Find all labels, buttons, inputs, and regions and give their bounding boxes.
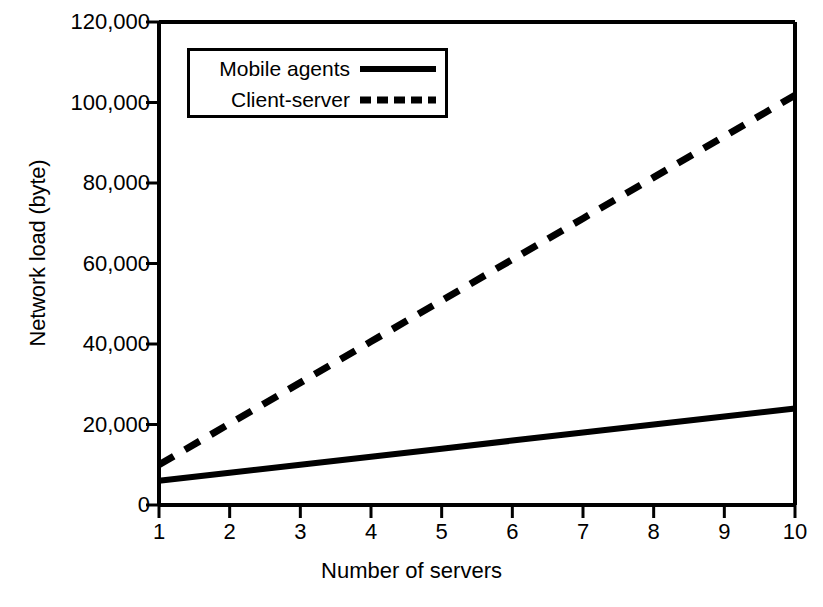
legend-label-client-server: Client-server [190, 88, 358, 112]
x-tick-label: 7 [553, 519, 613, 545]
x-tick-label: 1 [129, 519, 189, 545]
legend: Mobile agents Client-server [187, 48, 448, 118]
x-axis-title: Number of servers [0, 558, 823, 584]
x-tick-label: 5 [412, 519, 472, 545]
x-tick-label: 6 [482, 519, 542, 545]
legend-swatch-solid-line [358, 59, 438, 79]
network-load-chart: Network load (byte) 020,00040,00060,0008… [0, 0, 823, 607]
x-tick-label: 3 [270, 519, 330, 545]
series-line-mobile-agents [159, 408, 795, 480]
legend-item-client-server: Client-server [190, 84, 445, 115]
x-tick-label: 10 [765, 519, 823, 545]
data-series-layer [159, 95, 795, 481]
legend-label-mobile-agents: Mobile agents [190, 57, 358, 81]
x-tick-label: 4 [341, 519, 401, 545]
series-line-client-server [159, 95, 795, 464]
x-tick-label: 9 [694, 519, 754, 545]
legend-item-mobile-agents: Mobile agents [190, 53, 445, 84]
x-tick-label: 2 [200, 519, 260, 545]
legend-swatch-dashed-line [358, 90, 438, 110]
x-tick-label: 8 [624, 519, 684, 545]
